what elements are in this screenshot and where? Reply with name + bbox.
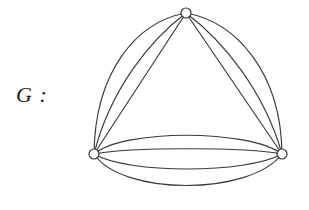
vertex-bottom-right — [277, 149, 287, 159]
edge-group-bottom-left-to-bottom-right — [94, 135, 282, 185]
edge-bottom-arc-upper-mid — [94, 149, 282, 154]
edge-group-top-to-bottom-left — [94, 13, 186, 154]
edge-bottom-arc-lower — [94, 154, 282, 186]
vertex-bottom-left — [89, 149, 99, 159]
vertex-top — [181, 8, 191, 18]
multigraph-diagram — [0, 0, 309, 210]
edge-bottom-arc-lower-mid — [94, 154, 282, 169]
edge-group-top-to-bottom-right — [186, 13, 282, 154]
vertices — [89, 8, 287, 159]
edge-top-bottomleft-inner — [94, 13, 186, 154]
